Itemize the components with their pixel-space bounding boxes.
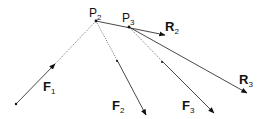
label-f3: F3 (182, 98, 195, 115)
vector-f3 (129, 27, 214, 113)
label-f2: F2 (112, 98, 125, 115)
label-f1: F1 (43, 79, 56, 96)
f3-dot (161, 61, 163, 63)
vector-f2 (96, 21, 146, 115)
label-r2: R2 (165, 19, 179, 36)
vector-r3 (129, 27, 247, 93)
label-p2: P2 (89, 6, 102, 22)
label-r3: R3 (239, 72, 253, 89)
start-point (15, 103, 17, 105)
f2-dot (116, 60, 118, 62)
force-vector-diagram: P2 P3 F1 F2 F3 R2 R3 (0, 0, 266, 119)
label-p3: P3 (122, 11, 135, 27)
